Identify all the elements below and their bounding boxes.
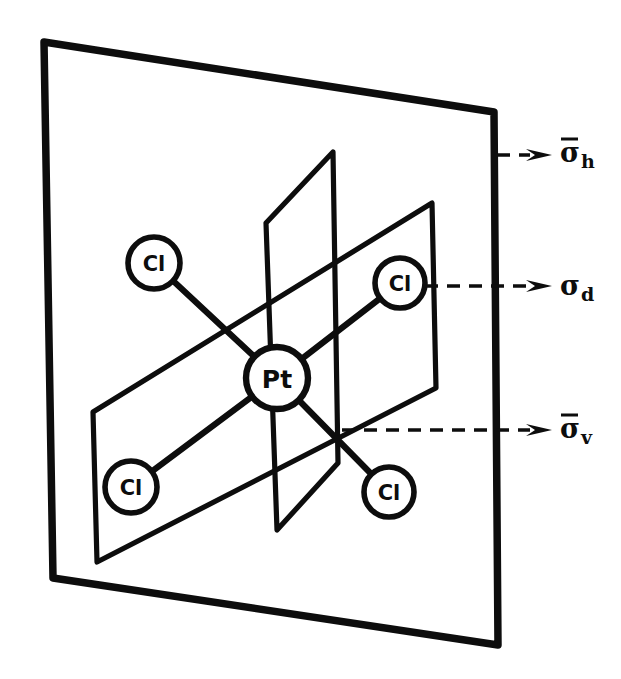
annotation-sigma-h: σh (497, 137, 595, 173)
sigma-v-label: σv (560, 413, 593, 449)
ligand-label-1: Cl (389, 272, 412, 296)
annotation-sigma-d: σd (425, 270, 594, 306)
arrow-head-sigma-d (526, 280, 552, 292)
ligand-label-3: Cl (378, 481, 401, 505)
center-atom-label: Pt (262, 365, 292, 394)
sigma-h-label: σh (560, 137, 595, 173)
ligand-label-2: Cl (120, 476, 143, 500)
ligand-label-0: Cl (143, 252, 166, 276)
center-atom-pt: Pt (246, 347, 308, 409)
ligand-cl-lower-right: Cl (364, 467, 414, 517)
ligand-cl-upper-right: Cl (375, 258, 425, 308)
symmetry-plane-diagram: Cl Cl Cl Cl Pt σh (0, 0, 621, 679)
sigma-d-label: σd (560, 270, 594, 306)
ligand-cl-lower-left: Cl (105, 461, 157, 513)
ligand-cl-upper-left: Cl (128, 237, 180, 289)
figure-container: Cl Cl Cl Cl Pt σh (0, 0, 621, 679)
